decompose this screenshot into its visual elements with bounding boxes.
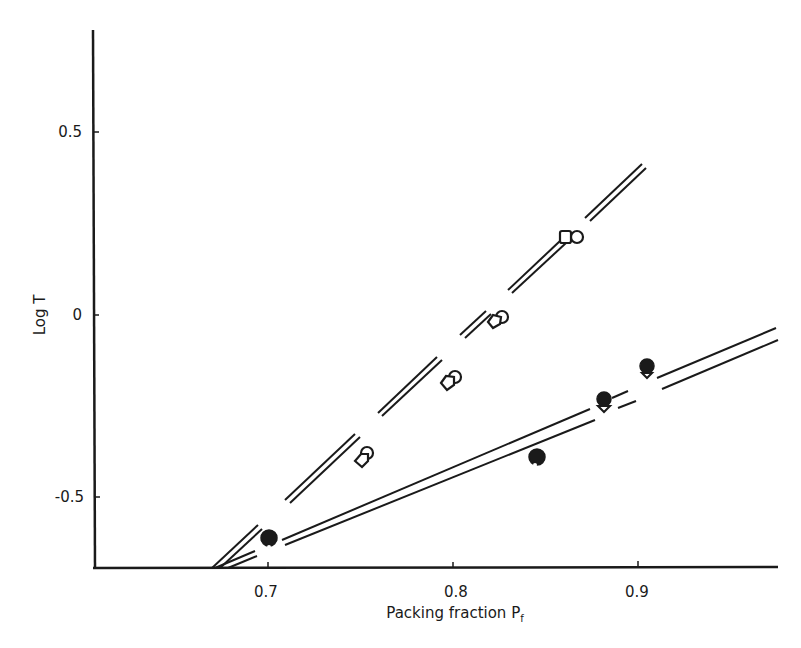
filled-marker — [261, 530, 277, 549]
y-tick-label: 0 — [72, 306, 82, 324]
shallow-fit-lines — [215, 328, 778, 568]
chart: 0.5 0 -0.5 0.7 0.8 0.9 Log T Packing fra… — [0, 0, 801, 648]
open-marker — [560, 231, 583, 243]
x-tick-label: 0.9 — [625, 583, 649, 601]
y-tick-label: 0.5 — [58, 123, 82, 141]
x-axis — [93, 567, 778, 568]
steep-fit-lines — [212, 164, 646, 568]
y-axis — [93, 30, 95, 569]
x-axis-label-subscript: f — [520, 613, 524, 624]
open-marker — [441, 371, 461, 390]
series-open-markers — [262, 231, 583, 547]
filled-marker — [529, 449, 545, 467]
x-tick-label: 0.7 — [254, 583, 278, 601]
series-filled-markers — [261, 359, 654, 549]
filled-marker — [597, 392, 611, 412]
x-tick-label: 0.8 — [444, 583, 468, 601]
open-marker — [488, 311, 508, 328]
x-axis-label: Packing fraction Pf — [386, 604, 524, 624]
y-tick-label: -0.5 — [55, 488, 84, 506]
x-axis-label-main: Packing fraction P — [386, 604, 520, 622]
y-axis-label: Log T — [31, 294, 49, 336]
open-marker — [355, 447, 373, 467]
filled-marker — [640, 359, 654, 378]
